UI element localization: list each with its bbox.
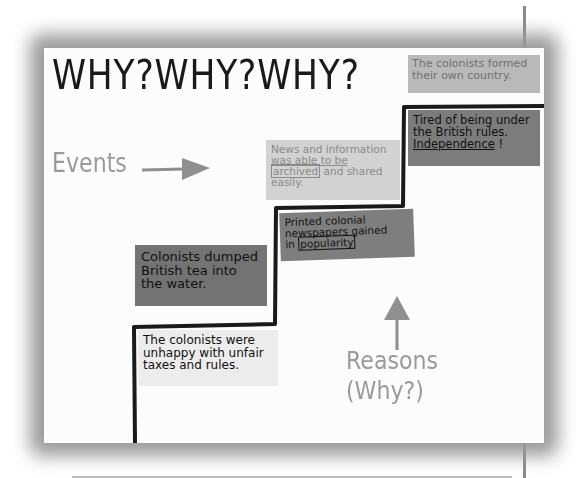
- card-unhappy-taxes: The colonists were unhappy with unfair t…: [138, 330, 278, 386]
- card-line: taxes and rules.: [143, 359, 273, 372]
- card-tea-dumped: Colonists dumped British tea into the wa…: [135, 245, 267, 306]
- card-line: their own country.: [412, 70, 536, 82]
- events-label: Events: [52, 148, 127, 178]
- anchor-chart-poster: WHY?WHY?WHY? Events Reasons (Why?) The c…: [44, 48, 544, 443]
- reasons-label: Reasons (Why?): [346, 346, 438, 406]
- card-line: The colonists formed: [412, 58, 536, 70]
- card-line: Colonists dumped: [141, 250, 261, 264]
- card-line: easily.: [271, 177, 395, 188]
- card-newspapers-popularity: Printed colonial newspapers gained in po…: [279, 209, 415, 262]
- card-line: British tea into: [141, 264, 261, 278]
- card-independence: Tired of being under the British rules. …: [408, 110, 540, 166]
- reasons-label-line1: Reasons: [346, 346, 438, 376]
- popularity-word: popularity: [298, 235, 356, 251]
- card-result-country: The colonists formed their own country.: [408, 55, 540, 93]
- reasons-label-line2: (Why?): [346, 376, 438, 406]
- independence-word: Independence: [413, 137, 495, 151]
- card-news-archived: News and information was able to be arch…: [266, 140, 400, 200]
- up-arrow-icon: [384, 296, 410, 350]
- card-line: the water.: [141, 277, 261, 291]
- card-line: in popularity: [285, 235, 409, 250]
- card-line: The colonists were: [143, 334, 273, 347]
- card-text: in: [285, 238, 298, 250]
- card-line: Independence !: [413, 138, 535, 150]
- exclamation: !: [495, 137, 503, 151]
- right-arrow-icon: [142, 158, 210, 180]
- card-text: and shared: [320, 165, 382, 177]
